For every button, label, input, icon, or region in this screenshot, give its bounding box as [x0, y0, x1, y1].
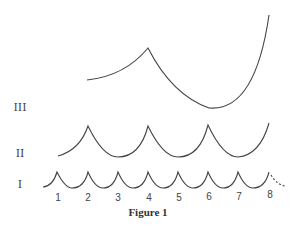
row-label-I: I [18, 178, 22, 191]
row-label-II: II [16, 147, 25, 160]
figure-caption: Figure 1 [128, 206, 167, 218]
tick-label-1: 1 [55, 192, 61, 203]
figure: III II I 1 2 3 4 5 6 7 8 Figure 1 [0, 0, 299, 231]
tick-label-7: 7 [236, 191, 242, 202]
row-label-III: III [13, 101, 26, 114]
curve-row-I [43, 172, 269, 188]
tick-label-3: 3 [115, 192, 121, 203]
curve-row-III [87, 15, 269, 108]
tick-label-2: 2 [85, 192, 91, 203]
tick-label-5: 5 [176, 192, 182, 203]
curve-row-II [58, 123, 269, 157]
tick-label-8: 8 [267, 189, 273, 200]
tick-label-6: 6 [206, 191, 212, 202]
tick-label-4: 4 [146, 192, 152, 203]
curve-row-I-dashed-continuation [271, 175, 286, 186]
